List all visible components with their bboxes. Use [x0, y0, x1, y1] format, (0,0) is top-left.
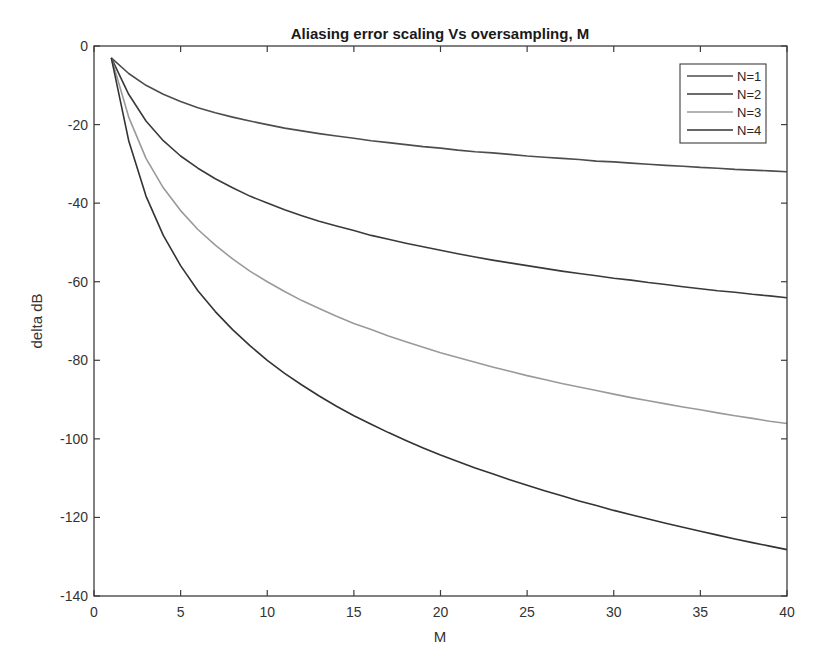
- chart-title: Aliasing error scaling Vs oversampling, …: [291, 25, 589, 42]
- y-tick-label: -120: [60, 509, 88, 525]
- x-tick-label: 5: [177, 604, 185, 620]
- x-tick-label: 35: [693, 604, 709, 620]
- legend-label: N=2: [737, 87, 761, 102]
- x-tick-label: 15: [346, 604, 362, 620]
- y-tick-label: 0: [80, 38, 88, 54]
- y-tick-label: -20: [68, 117, 88, 133]
- y-tick-label: -40: [68, 195, 88, 211]
- y-tick-label: -80: [68, 352, 88, 368]
- line-chart: Aliasing error scaling Vs oversampling, …: [0, 0, 820, 669]
- x-axis-label: M: [434, 628, 447, 645]
- legend: N=1N=2N=3N=4: [680, 64, 766, 143]
- y-axis: 0-20-40-60-80-100-120-140: [60, 38, 787, 604]
- x-tick-label: 25: [519, 604, 535, 620]
- legend-label: N=4: [737, 123, 761, 138]
- y-axis-label: delta dB: [28, 293, 45, 348]
- y-tick-label: -140: [60, 588, 88, 604]
- y-tick-label: -100: [60, 431, 88, 447]
- legend-label: N=1: [737, 69, 761, 84]
- y-tick-label: -60: [68, 274, 88, 290]
- legend-label: N=3: [737, 105, 761, 120]
- x-tick-label: 10: [259, 604, 275, 620]
- x-tick-label: 30: [606, 604, 622, 620]
- x-tick-label: 20: [433, 604, 449, 620]
- x-tick-label: 40: [779, 604, 795, 620]
- x-tick-label: 0: [90, 604, 98, 620]
